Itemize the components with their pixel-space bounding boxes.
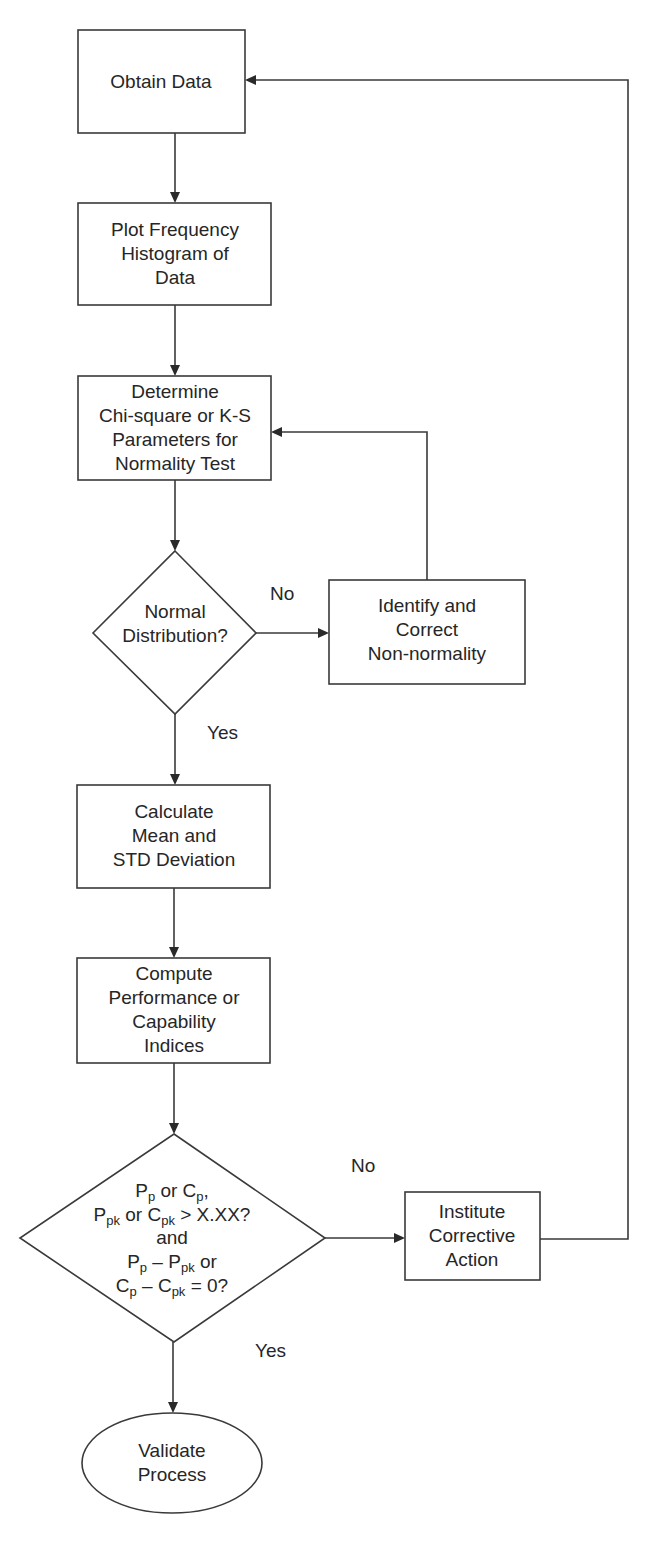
node-label: Mean and (132, 825, 217, 846)
node-calculate-mean: Calculate Mean and STD Deviation (77, 785, 270, 888)
arrowhead-icon (271, 427, 282, 437)
node-label: Action (446, 1249, 499, 1270)
edge-identify-determine (279, 432, 427, 580)
arrowhead-icon (245, 75, 256, 85)
edge-label-capability-yes: Yes (255, 1340, 286, 1361)
node-obtain-data: Obtain Data (78, 30, 245, 133)
node-label: Normality Test (115, 453, 236, 474)
node-label: STD Deviation (113, 849, 236, 870)
arrowhead-icon (170, 774, 180, 785)
node-label: Performance or (109, 987, 241, 1008)
node-label: and (156, 1227, 188, 1248)
node-label: Non-normality (368, 643, 487, 664)
node-label: Chi-square or K-S (99, 405, 251, 426)
node-label: Parameters for (112, 429, 238, 450)
node-compute-indices: Compute Performance or Capability Indice… (77, 958, 270, 1063)
edge-label-normal-yes: Yes (207, 722, 238, 743)
node-label: Calculate (134, 801, 213, 822)
decision-normal-distribution: Normal Distribution? (93, 551, 256, 714)
node-label: Histogram of (121, 243, 229, 264)
edge-label-capability-no: No (351, 1155, 375, 1176)
arrowhead-icon (170, 365, 180, 376)
node-label: Identify and (378, 595, 476, 616)
node-label: Capability (132, 1011, 216, 1032)
node-label: Obtain Data (110, 71, 212, 92)
edge-label-normal-no: No (270, 583, 294, 604)
node-label: Corrective (429, 1225, 516, 1246)
node-institute-corrective-action: Institute Corrective Action (405, 1192, 540, 1280)
node-label: Institute (439, 1201, 506, 1222)
node-label: Plot Frequency (111, 219, 239, 240)
node-determine-parameters: Determine Chi-square or K-S Parameters f… (78, 376, 271, 480)
node-label: Correct (396, 619, 459, 640)
process-capability-flowchart: Obtain Data Plot Frequency Histogram of … (0, 0, 658, 1551)
node-label: Determine (131, 381, 219, 402)
node-label: Process (138, 1464, 207, 1485)
decision-capability-check: Pp or Cp, Ppk or Cpk > X.XX? and Pp – Pp… (20, 1134, 325, 1342)
node-label: Normal (144, 601, 205, 622)
node-label: Validate (138, 1440, 205, 1461)
node-plot-histogram: Plot Frequency Histogram of Data (78, 203, 271, 305)
node-validate-process: Validate Process (82, 1413, 262, 1513)
node-label: Indices (144, 1035, 204, 1056)
arrowhead-icon (394, 1233, 405, 1243)
arrowhead-icon (170, 192, 180, 203)
node-identify-correct: Identify and Correct Non-normality (329, 580, 525, 684)
node-label: Distribution? (122, 625, 228, 646)
arrowhead-icon (169, 947, 179, 958)
arrowhead-icon (170, 540, 180, 551)
arrowhead-icon (168, 1402, 178, 1413)
arrowhead-icon (169, 1123, 179, 1134)
node-label: Data (155, 267, 196, 288)
node-label: Compute (135, 963, 212, 984)
arrowhead-icon (318, 628, 329, 638)
